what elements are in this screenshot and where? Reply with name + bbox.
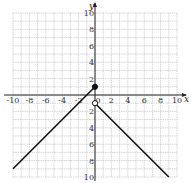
x-tick-label: -10 (7, 96, 20, 105)
y-tick-label: 4 (89, 124, 94, 133)
x-tick-label: -6 (42, 96, 50, 105)
y-tick-label: 2 (89, 107, 94, 116)
y-axis-label: y (88, 1, 95, 11)
closed-dot (92, 84, 97, 89)
y-tick-label: 2 (89, 75, 94, 84)
y-tick-label: 8 (89, 25, 94, 34)
y-tick-label: 6 (89, 140, 94, 149)
x-tick-label: -8 (26, 96, 34, 105)
y-tick-label: 6 (89, 42, 94, 51)
x-axis-label: x (184, 94, 189, 104)
x-tick-label: 10 (172, 96, 182, 105)
y-tick-label: 4 (89, 58, 94, 67)
x-tick-label: 4 (125, 96, 130, 105)
y-tick-label: 8 (89, 157, 94, 166)
x-tick-label: 2 (109, 96, 114, 105)
axes (4, 2, 187, 181)
open-dot (92, 101, 97, 106)
y-tick-label: 10 (84, 173, 94, 182)
x-tick-label: 8 (158, 96, 163, 105)
x-tick-label: 6 (142, 96, 147, 105)
x-tick-label: -4 (58, 96, 66, 105)
piecewise-graph: -10-8-6-4-20246810108642246810 x y (0, 0, 191, 183)
graph-line (95, 103, 169, 177)
